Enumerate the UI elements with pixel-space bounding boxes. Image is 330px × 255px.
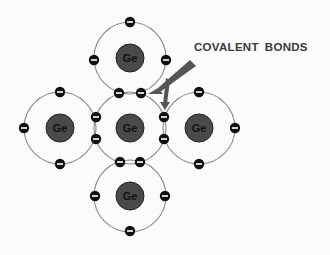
label-word-1: COVALENT	[194, 41, 259, 53]
nucleus-left: Ge	[46, 114, 74, 142]
electron-icon	[160, 191, 170, 201]
svg-text:Ge: Ge	[123, 190, 138, 202]
electron-icon	[125, 226, 135, 236]
svg-text:Ge: Ge	[123, 122, 138, 134]
electron-icon	[91, 134, 101, 144]
covalent-bond-diagram: Ge Ge Ge Ge Ge	[0, 0, 330, 255]
electron-icon	[159, 134, 169, 144]
electron-icon	[114, 88, 124, 98]
electron-icon	[136, 88, 146, 98]
electron-icon	[135, 157, 145, 167]
electron-icon	[55, 159, 65, 169]
electron-icon	[91, 112, 101, 122]
nucleus-center: Ge	[116, 114, 144, 142]
svg-text:Ge: Ge	[123, 52, 138, 64]
nucleus-bottom: Ge	[116, 182, 144, 210]
svg-text:Ge: Ge	[192, 122, 207, 134]
electron-icon	[194, 159, 204, 169]
electron-icon	[19, 123, 29, 133]
electron-icon	[161, 55, 171, 65]
electron-icon	[194, 87, 204, 97]
covalent-bonds-label: COVALENTBONDS	[194, 41, 308, 53]
electron-icon	[159, 112, 169, 122]
svg-text:Ge: Ge	[53, 122, 68, 134]
electron-icon	[55, 87, 65, 97]
nucleus-top: Ge	[116, 44, 144, 72]
electron-icon	[90, 191, 100, 201]
nucleus-right: Ge	[185, 114, 213, 142]
label-word-2: BONDS	[265, 41, 308, 53]
electron-icon	[115, 157, 125, 167]
electron-icon	[89, 55, 99, 65]
electron-icon	[125, 17, 135, 27]
electron-icon	[230, 123, 240, 133]
